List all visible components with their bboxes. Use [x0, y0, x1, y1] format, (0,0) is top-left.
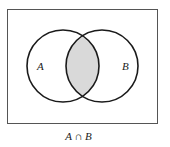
set-b-label: B: [122, 60, 129, 72]
venn-diagram: A B: [0, 0, 170, 147]
diagram-caption: A ∩ B: [0, 130, 157, 142]
set-a-label: A: [36, 60, 44, 72]
